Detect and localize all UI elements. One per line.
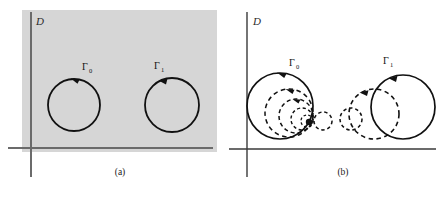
curve-gamma-0-degenerate-point-b xyxy=(306,119,312,125)
curve-gamma-0-b xyxy=(247,73,313,139)
domain-label-b: D xyxy=(252,15,261,27)
domain-region-a xyxy=(22,10,217,152)
caption-panel-b: (b) xyxy=(313,167,373,177)
curve-sublabel-gamma-0-b: 0 xyxy=(296,63,299,70)
domain-label-a: D xyxy=(35,15,44,27)
curve-sublabel-gamma-1-b: 1 xyxy=(390,61,393,68)
curve-label-gamma-0-a: Γ xyxy=(82,61,88,72)
figure-container: D Γ 0 Γ 1 D xyxy=(0,0,446,197)
arrowhead-homotopy-2-b xyxy=(293,99,301,103)
curve-sublabel-gamma-0-a: 0 xyxy=(89,67,92,74)
curve-label-gamma-0-b: Γ xyxy=(289,57,295,68)
curve-label-gamma-1-b: Γ xyxy=(383,55,389,66)
curve-gamma-1-homotopy-1-b xyxy=(349,89,399,139)
curve-label-gamma-1-a: Γ xyxy=(154,60,160,71)
caption-panel-a: (a) xyxy=(90,167,150,177)
arrowhead-homotopy-1-b xyxy=(286,89,295,94)
curve-gamma-1-b xyxy=(371,75,435,139)
curve-gamma-0-point-b xyxy=(314,112,332,130)
curve-gamma-1-homotopy-2-b xyxy=(340,108,362,130)
curve-sublabel-gamma-1-a: 1 xyxy=(161,66,164,73)
